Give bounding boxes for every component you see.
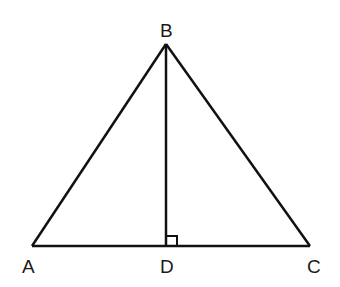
label-a: A	[22, 256, 35, 277]
segment-bc	[166, 44, 310, 246]
label-c: C	[307, 256, 321, 277]
triangle-figure: B A D C	[0, 0, 340, 287]
label-b: B	[160, 20, 173, 41]
label-d: D	[160, 256, 174, 277]
segment-ab	[32, 44, 166, 246]
geometry-diagram: B A D C	[0, 0, 340, 287]
right-angle-marker	[166, 236, 177, 246]
